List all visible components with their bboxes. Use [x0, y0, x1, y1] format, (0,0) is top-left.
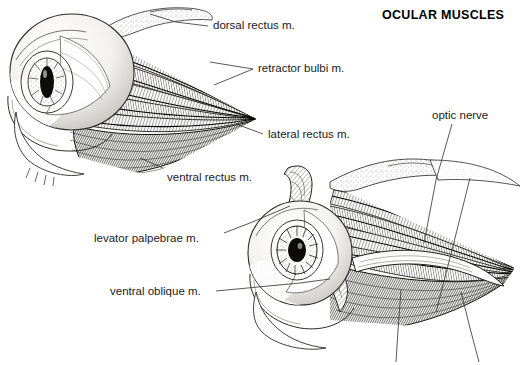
label-dorsal-rectus: dorsal rectus m.	[213, 20, 295, 32]
page-title: OCULAR MUSCLES	[382, 8, 504, 22]
label-levator-palpebrae: levator palpebrae m.	[94, 233, 199, 245]
label-retractor-bulbi: retractor bulbi m.	[258, 63, 344, 75]
label-optic-nerve: optic nerve	[432, 110, 488, 122]
illustration-page: OCULAR MUSCLES dorsal rectus m. retracto…	[0, 0, 527, 365]
pupil-lower	[288, 238, 306, 262]
pupil-upper	[40, 66, 54, 98]
label-ventral-oblique: ventral oblique m.	[110, 286, 201, 298]
ocular-muscles-illustration	[0, 0, 527, 365]
label-ventral-rectus: ventral rectus m.	[167, 172, 252, 184]
label-lateral-rectus: lateral rectus m.	[268, 129, 350, 141]
